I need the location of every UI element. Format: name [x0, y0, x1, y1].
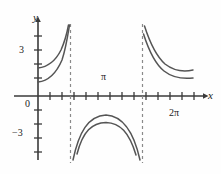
y-axis-label: y [33, 12, 38, 23]
axes-group [14, 17, 209, 161]
y-tick-label-3: 3 [19, 45, 24, 55]
y-tick-label-negative-3: −3 [12, 128, 23, 138]
plot-canvas [0, 0, 221, 174]
curve-right-upper-outer [145, 26, 194, 71]
graph-figure: y x 3 −3 0 π 2π [0, 0, 221, 174]
curve-left-upper-outer [38, 25, 69, 68]
curve-left-upper-inner [38, 25, 70, 82]
origin-label: 0 [25, 99, 30, 109]
x-tick-label-2pi: 2π [169, 108, 179, 118]
x-axis-label: x [208, 90, 213, 101]
x-tick-label-pi: π [101, 72, 106, 82]
